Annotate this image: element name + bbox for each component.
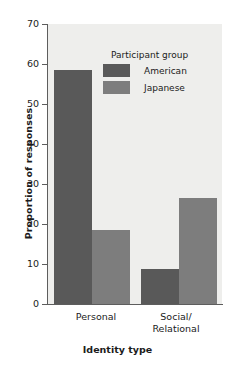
y-axis-title: Proportion of responses — [23, 84, 34, 264]
y-tick-label-30: 30 — [0, 178, 39, 189]
legend: Participant group American Japanese — [103, 50, 219, 98]
y-tick-label-50: 50 — [0, 98, 39, 109]
bar-chart-figure: Proportion of responses 010203040506070 … — [0, 0, 235, 367]
y-tick-50 — [42, 104, 48, 105]
y-tick-70 — [42, 24, 48, 25]
y-tick-60 — [42, 64, 48, 65]
y-tick-40 — [42, 144, 48, 145]
y-tick-30 — [42, 184, 48, 185]
y-tick-label-20: 20 — [0, 218, 39, 229]
bar-american-social-relational — [141, 269, 179, 304]
legend-swatch-japanese — [103, 81, 130, 94]
x-tick-label-social-relational-line-1: Social/ — [130, 311, 222, 323]
y-tick-20 — [42, 224, 48, 225]
y-tick-label-40: 40 — [0, 138, 39, 149]
legend-item-american: American — [103, 64, 219, 77]
x-tick-label-personal-line-1: Personal — [50, 311, 142, 323]
legend-swatch-american — [103, 64, 130, 77]
bar-japanese-personal — [92, 230, 130, 304]
legend-label-japanese: Japanese — [144, 83, 185, 93]
y-tick-label-70: 70 — [0, 18, 39, 29]
bar-japanese-social-relational — [179, 198, 217, 304]
x-tick-label-personal: Personal — [50, 311, 142, 323]
x-tick-label-social-relational: Social/ Relational — [130, 311, 222, 334]
legend-title: Participant group — [103, 50, 219, 60]
y-tick-label-10: 10 — [0, 258, 39, 269]
y-tick-label-0: 0 — [0, 298, 39, 309]
x-axis-spine — [47, 304, 223, 305]
y-tick-0 — [42, 304, 48, 305]
y-tick-10 — [42, 264, 48, 265]
y-tick-label-60: 60 — [0, 58, 39, 69]
legend-item-japanese: Japanese — [103, 81, 219, 94]
y-axis-spine — [47, 24, 48, 305]
x-axis-title: Identity type — [0, 344, 235, 355]
legend-label-american: American — [144, 66, 187, 76]
bar-american-personal — [54, 70, 92, 304]
x-tick-label-social-relational-line-2: Relational — [130, 323, 222, 335]
